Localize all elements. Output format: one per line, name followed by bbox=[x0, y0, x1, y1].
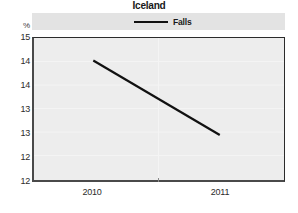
legend-item-label: Falls bbox=[173, 17, 192, 27]
y-tick-label-4: 13 bbox=[6, 129, 30, 138]
x-tick-label-2011: 2011 bbox=[190, 187, 250, 197]
legend-item-falls: Falls bbox=[134, 17, 193, 27]
y-tick-label-6: 12 bbox=[6, 177, 30, 186]
plot-area bbox=[32, 37, 285, 182]
y-tick-label-2: 14 bbox=[6, 81, 30, 90]
chart-container: Iceland Falls % 15 14 14 13 13 12 12 bbox=[0, 0, 298, 213]
y-tick-label-3: 13 bbox=[6, 105, 30, 114]
y-tick-label-0: 15 bbox=[6, 33, 30, 42]
y-tick-label-1: 14 bbox=[6, 57, 30, 66]
series-line-falls bbox=[93, 61, 219, 135]
chart-title: Iceland bbox=[12, 0, 286, 12]
x-tick-mark-center bbox=[158, 178, 159, 182]
plot-canvas bbox=[34, 38, 284, 180]
legend-line-swatch-icon bbox=[134, 21, 168, 23]
chart-legend: Falls bbox=[32, 13, 285, 30]
y-tick-label-5: 12 bbox=[6, 153, 30, 162]
y-axis-unit-label: % bbox=[23, 21, 30, 30]
x-tick-label-2010: 2010 bbox=[62, 187, 122, 197]
